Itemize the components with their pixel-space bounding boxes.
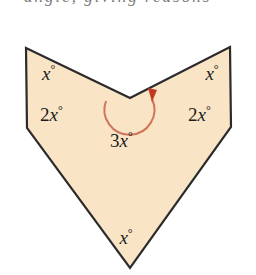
geometry-figure-root: angle, giving reasons x° x° 2x° 2x° 3x° … [0,0,256,275]
degree-symbol-top-left: ° [50,62,55,76]
polygon-diagram: x° x° 2x° 2x° 3x° x° [0,0,256,275]
degree-symbol-mid-right: ° [206,103,211,117]
angle-label-mid-left-coef: 2 [40,104,50,125]
degree-symbol-mid-left: ° [58,103,63,117]
angle-label-mid-right-coef: 2 [188,104,198,125]
angle-label-reflex-coef: 3 [110,130,120,151]
degree-symbol-bottom: ° [128,226,133,240]
degree-symbol-top-right: ° [214,62,219,76]
degree-symbol-reflex: ° [128,129,133,143]
